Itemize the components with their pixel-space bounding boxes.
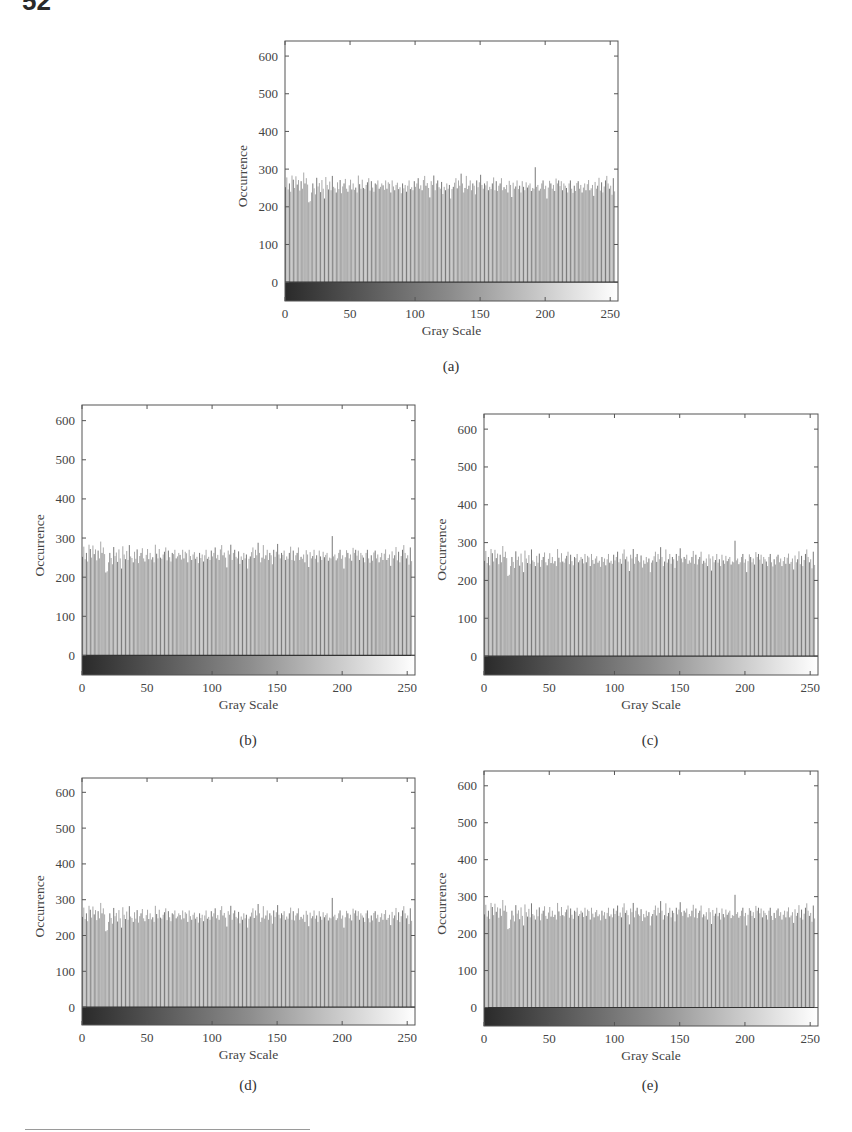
svg-text:0: 0: [79, 680, 86, 695]
svg-text:100: 100: [259, 237, 279, 252]
histogram-panel-d: 0100200300400500600050100150200250Gray S…: [82, 778, 415, 1025]
svg-text:300: 300: [458, 535, 478, 550]
svg-text:250: 250: [800, 680, 820, 695]
caption-a: (a): [431, 358, 471, 375]
histogram-panel-c: 0100200300400500600050100150200250Gray S…: [484, 414, 818, 675]
x-axis-label: Gray Scale: [219, 697, 279, 712]
svg-text:250: 250: [397, 680, 417, 695]
histogram-plot: 0100200300400500600050100150200250Gray S…: [82, 778, 415, 1085]
svg-text:100: 100: [458, 963, 478, 978]
svg-text:200: 200: [56, 570, 76, 585]
footnote-rule: [25, 1129, 310, 1130]
svg-text:0: 0: [282, 306, 289, 321]
svg-text:0: 0: [481, 1031, 488, 1046]
x-axis-label: Gray Scale: [219, 1047, 279, 1062]
svg-text:50: 50: [141, 1030, 154, 1045]
svg-text:150: 150: [670, 1031, 690, 1046]
svg-text:400: 400: [259, 124, 279, 139]
y-axis-label: Occurrence: [32, 514, 47, 576]
svg-text:0: 0: [471, 649, 478, 664]
caption-e: (e): [630, 1077, 670, 1094]
svg-text:0: 0: [69, 648, 76, 663]
svg-text:300: 300: [56, 531, 76, 546]
histogram-panel-e: 0100200300400500600050100150200250Gray S…: [484, 771, 818, 1026]
histogram-plot: 0100200300400500600050100150200250Gray S…: [82, 405, 415, 735]
y-axis-label: Occurrence: [434, 519, 449, 581]
svg-text:400: 400: [458, 497, 478, 512]
svg-text:600: 600: [56, 413, 76, 428]
x-axis-label: Gray Scale: [422, 323, 482, 338]
svg-text:600: 600: [458, 778, 478, 793]
svg-text:500: 500: [458, 459, 478, 474]
svg-text:0: 0: [272, 275, 279, 290]
svg-text:500: 500: [458, 815, 478, 830]
x-axis-label: Gray Scale: [621, 1048, 681, 1063]
svg-text:600: 600: [259, 49, 279, 64]
x-axis-label: Gray Scale: [621, 697, 681, 712]
histogram-plot: 0100200300400500600050100150200250Gray S…: [484, 414, 818, 735]
svg-text:300: 300: [259, 162, 279, 177]
svg-text:500: 500: [56, 821, 76, 836]
caption-c: (c): [630, 732, 670, 749]
svg-text:100: 100: [202, 1030, 222, 1045]
svg-text:50: 50: [543, 1031, 556, 1046]
svg-text:200: 200: [458, 573, 478, 588]
svg-text:500: 500: [56, 452, 76, 467]
svg-text:150: 150: [470, 306, 490, 321]
page-number: 52: [22, 0, 51, 17]
svg-text:200: 200: [735, 1031, 755, 1046]
svg-text:0: 0: [481, 680, 488, 695]
y-axis-label: Occurrence: [434, 872, 449, 934]
svg-text:400: 400: [56, 491, 76, 506]
svg-text:150: 150: [267, 680, 287, 695]
svg-text:0: 0: [69, 1000, 76, 1015]
svg-text:250: 250: [397, 1030, 417, 1045]
svg-text:200: 200: [458, 926, 478, 941]
svg-text:100: 100: [56, 609, 76, 624]
svg-text:200: 200: [332, 680, 352, 695]
svg-text:200: 200: [535, 306, 555, 321]
svg-text:400: 400: [56, 856, 76, 871]
svg-text:150: 150: [267, 1030, 287, 1045]
svg-text:50: 50: [543, 680, 556, 695]
caption-d: (d): [228, 1077, 268, 1094]
svg-text:100: 100: [458, 611, 478, 626]
svg-text:100: 100: [56, 964, 76, 979]
svg-text:150: 150: [670, 680, 690, 695]
svg-text:400: 400: [458, 852, 478, 867]
svg-text:0: 0: [79, 1030, 86, 1045]
svg-text:250: 250: [600, 306, 620, 321]
svg-text:250: 250: [800, 1031, 820, 1046]
svg-text:100: 100: [605, 680, 625, 695]
histogram-panel-b: 0100200300400500600050100150200250Gray S…: [82, 405, 415, 675]
svg-text:50: 50: [344, 306, 357, 321]
svg-text:200: 200: [332, 1030, 352, 1045]
caption-b: (b): [228, 732, 268, 749]
svg-text:200: 200: [735, 680, 755, 695]
y-axis-label: Occurrence: [32, 875, 47, 937]
svg-text:300: 300: [458, 889, 478, 904]
svg-text:600: 600: [458, 422, 478, 437]
svg-text:50: 50: [141, 680, 154, 695]
svg-text:200: 200: [56, 928, 76, 943]
svg-text:600: 600: [56, 785, 76, 800]
y-axis-label: Occurrence: [235, 145, 250, 207]
histogram-plot: 0100200300400500600050100150200250Gray S…: [484, 771, 818, 1086]
histogram-panel-a: 0100200300400500600050100150200250Gray S…: [285, 41, 618, 301]
svg-text:300: 300: [56, 892, 76, 907]
svg-text:0: 0: [471, 1000, 478, 1015]
svg-text:500: 500: [259, 86, 279, 101]
histogram-plot: 0100200300400500600050100150200250Gray S…: [285, 41, 618, 361]
svg-text:100: 100: [202, 680, 222, 695]
svg-text:200: 200: [259, 199, 279, 214]
svg-text:100: 100: [605, 1031, 625, 1046]
svg-text:100: 100: [405, 306, 425, 321]
